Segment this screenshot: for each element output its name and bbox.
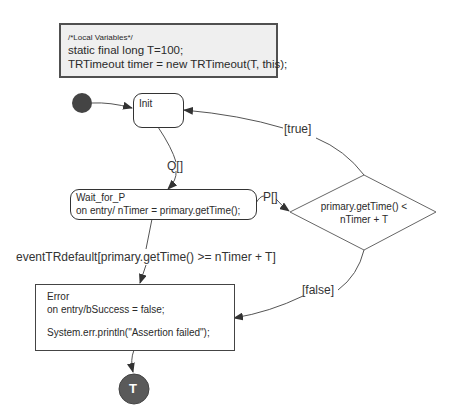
state-init: Init — [133, 93, 184, 128]
choice-diamond — [290, 175, 436, 250]
state-wait-for-p: Wait_for_P on entry/ nTimer = primary.ge… — [70, 189, 257, 220]
local-variables-box: /*Local Variables*/ static final long T=… — [59, 23, 278, 78]
label-init-to-wait: Q[] — [167, 159, 183, 173]
label-choice-false: [false] — [302, 283, 334, 297]
choice-condition-line1: primary.getTime() < — [317, 201, 411, 212]
choice-condition-line2: nTimer + T — [317, 214, 411, 225]
state-error: Error on entry/bSuccess = false; System.… — [35, 284, 235, 351]
label-choice-true: [true] — [284, 122, 311, 136]
initial-state-node — [72, 93, 92, 113]
state-error-name: Error — [47, 291, 69, 302]
local-variable-line: TRTimeout timer = new TRTimeout(T, this)… — [68, 58, 287, 70]
state-wait-name: Wait_for_P — [76, 192, 125, 203]
final-state-label: T — [129, 381, 137, 396]
local-variables-comment: /*Local Variables*/ — [68, 33, 133, 42]
transition-initial-to-init — [92, 103, 132, 108]
label-wait-to-error: eventTRdefault[primary.getTime() >= nTim… — [16, 250, 276, 264]
local-variable-line: static final long T=100; — [68, 44, 183, 56]
label-wait-to-choice: P[] — [263, 190, 278, 204]
transition-choice-true — [184, 110, 364, 175]
transition-error-to-final — [132, 350, 134, 372]
state-error-action: System.err.println("Assertion failed"); — [47, 327, 210, 338]
state-wait-entry: on entry/ nTimer = primary.getTime(); — [76, 205, 240, 216]
transition-init-to-wait — [158, 127, 176, 189]
state-error-entry: on entry/bSuccess = false; — [47, 304, 165, 315]
state-init-name: Init — [139, 98, 152, 109]
